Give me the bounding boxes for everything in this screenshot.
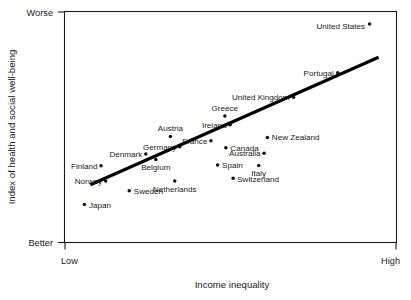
data-point-label: Belgium: [141, 163, 170, 172]
data-point[interactable]: Japan: [83, 201, 111, 210]
data-point-marker: [127, 189, 131, 193]
data-point-label: Greece: [212, 104, 239, 113]
data-point-marker: [336, 71, 340, 75]
data-points-layer: JapanNorwayFinlandSwedenDenmarkBelgiumNe…: [71, 22, 371, 210]
data-point-label: United Kingdom: [232, 93, 290, 102]
scatter-plot-figure: Worse Better Low High Income inequality …: [0, 0, 411, 300]
data-point-label: Spain: [222, 161, 243, 170]
data-point-marker: [216, 163, 220, 167]
data-point-marker: [368, 22, 372, 26]
data-point[interactable]: Netherlands: [153, 179, 197, 194]
y-tick-label-worse: Worse: [27, 8, 53, 18]
data-point-marker: [228, 123, 232, 127]
y-axis-ticks: [58, 12, 65, 243]
data-point[interactable]: France: [182, 137, 212, 146]
data-point-label: Ireland: [202, 121, 227, 130]
x-axis-title: Income inequality: [195, 279, 270, 290]
data-point[interactable]: Germany: [143, 143, 182, 152]
data-point[interactable]: United Kingdom: [232, 93, 295, 102]
data-point[interactable]: Denmark: [109, 150, 147, 159]
data-point-marker: [231, 177, 235, 181]
data-point[interactable]: New Zealand: [266, 133, 320, 142]
data-point-marker: [223, 114, 227, 118]
x-axis-ticks: [65, 243, 396, 250]
data-point-label: France: [182, 137, 208, 146]
data-point-label: Portugal: [304, 69, 334, 78]
x-tick-label-low: Low: [61, 256, 78, 266]
data-point-marker: [154, 158, 158, 162]
data-point-marker: [292, 95, 296, 99]
data-point-label: Denmark: [109, 150, 143, 159]
data-point[interactable]: Greece: [212, 104, 239, 118]
data-point-marker: [144, 152, 148, 156]
y-tick-label-better: Better: [28, 238, 53, 248]
data-point-label: Italy: [251, 169, 267, 178]
data-point[interactable]: Australia: [229, 149, 266, 158]
data-point[interactable]: Finland: [71, 162, 103, 171]
data-point-label: Japan: [89, 201, 111, 210]
y-axis-title: Index of health and social well-being: [6, 50, 17, 205]
data-point-marker: [262, 152, 266, 156]
data-point[interactable]: Italy: [251, 164, 267, 178]
data-point-marker: [209, 139, 213, 143]
data-point-marker: [224, 146, 228, 150]
data-point-label: New Zealand: [272, 133, 320, 142]
data-point[interactable]: United States: [317, 22, 372, 31]
data-point-label: Norway: [75, 177, 103, 186]
data-point[interactable]: Austria: [158, 124, 184, 138]
plot-canvas: Worse Better Low High Income inequality …: [0, 0, 411, 300]
data-point[interactable]: Spain: [216, 161, 243, 170]
data-point-label: Australia: [229, 149, 261, 158]
data-point-marker: [104, 179, 108, 183]
data-point-label: Finland: [71, 162, 98, 171]
data-point-marker: [83, 203, 87, 207]
data-point-marker: [99, 164, 103, 168]
data-point-marker: [169, 135, 173, 139]
data-point-marker: [266, 136, 270, 140]
plot-frame: [65, 12, 397, 243]
data-point-label: Germany: [143, 143, 177, 152]
data-point-label: Austria: [158, 124, 184, 133]
data-point-label: Netherlands: [153, 185, 197, 194]
data-point-marker: [257, 164, 261, 168]
data-point-marker: [178, 145, 182, 149]
data-point-marker: [173, 179, 177, 183]
x-tick-label-high: High: [381, 256, 400, 266]
data-point-label: United States: [317, 22, 366, 31]
